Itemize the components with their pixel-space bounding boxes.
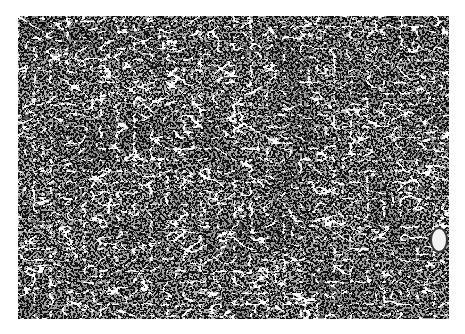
tissue-texture xyxy=(18,16,449,319)
histology-micrograph xyxy=(18,16,449,319)
vessel-lumen xyxy=(430,227,448,253)
